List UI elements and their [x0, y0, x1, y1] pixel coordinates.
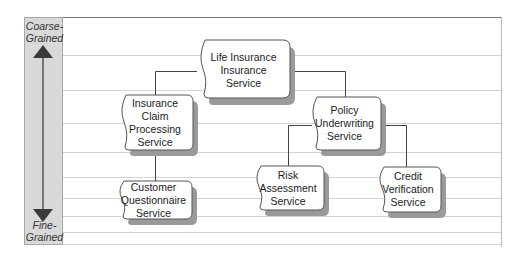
node-label-line: Processing [129, 123, 181, 136]
node-label-line: Assessment [259, 182, 316, 195]
node-label-line: Service [315, 130, 374, 143]
node-label-line: Service [211, 77, 277, 90]
node-customer-questionnaire-service: Customer Questionnaire Service [115, 181, 192, 219]
node-label-line: Claim [129, 110, 181, 123]
service-granularity-diagram: Coarse- Grained Fine- Grained Life I [0, 0, 525, 262]
node-policy-underwriting-service: Policy Underwriting Service [308, 97, 381, 150]
node-label-line: Verification [382, 183, 433, 196]
node-insurance-claim-processing-service: Insurance Claim Processing Service [117, 95, 193, 150]
edge-life-claim [156, 72, 198, 97]
node-label-line: Questionnaire [121, 194, 186, 207]
edge-life-policy [291, 72, 346, 99]
node-label-line: Customer [121, 181, 186, 194]
node-life-insurance-service: Life Insurance Insurance Service [195, 40, 292, 100]
node-label-line: Insurance [129, 97, 181, 110]
node-label-line: Life Insurance [211, 51, 277, 64]
node-label-line: Service [382, 196, 433, 209]
node-label-line: Service [121, 207, 186, 220]
node-credit-verification-service: Credit Verification Service [375, 167, 441, 212]
node-risk-assessment-service: Risk Assessment Service [252, 166, 324, 210]
node-label-line: Credit [382, 170, 433, 183]
node-label-line: Underwriting [315, 117, 374, 130]
node-label-line: Service [259, 195, 316, 208]
node-label-line: Service [129, 136, 181, 149]
node-label-line: Policy [315, 104, 374, 117]
node-label-line: Risk [259, 169, 316, 182]
node-label-line: Insurance [211, 64, 277, 77]
